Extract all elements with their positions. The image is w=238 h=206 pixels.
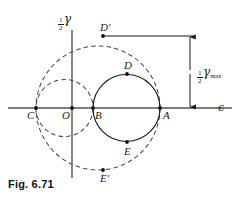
point-label-B: B: [95, 110, 102, 121]
half-fraction-yaxis: 1 2: [58, 17, 64, 32]
point-label-O: O: [62, 110, 70, 121]
max-subscript: max: [210, 72, 222, 79]
point-marker-O: [70, 106, 74, 110]
figure-container: C O B A D E D′ E′ 1 2 γ ϵ 1 2 γmax Fig. …: [0, 0, 238, 206]
point-marker-C: [34, 106, 38, 110]
point-marker-D: [125, 72, 129, 76]
point-label-E-prime: E′: [100, 173, 109, 184]
gamma-symbol-yaxis: γ: [64, 12, 71, 26]
point-marker-Dp: [101, 34, 105, 38]
point-label-E: E: [124, 146, 131, 157]
half-gamma-max-label: 1 2 γmax: [197, 62, 222, 85]
point-marker-E: [125, 140, 129, 144]
point-label-C: C: [27, 110, 34, 121]
axis-lines: [8, 30, 232, 178]
half-fraction-gammamax: 1 2: [197, 70, 203, 85]
point-label-D: D: [124, 60, 132, 71]
half-shear-strain-axis-label: 1 2 γ: [58, 9, 71, 32]
point-marker-A: [158, 106, 162, 110]
normal-strain-axis-label: ϵ: [218, 101, 224, 114]
point-label-A: A: [163, 110, 170, 121]
figure-caption: Fig. 6.71: [8, 178, 54, 190]
point-label-D-prime: D′: [100, 22, 110, 33]
mohr-circle-diagram: [0, 0, 238, 206]
